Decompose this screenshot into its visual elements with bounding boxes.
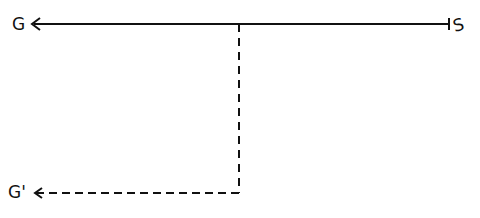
label-s: S bbox=[451, 14, 467, 36]
label-g: G bbox=[12, 14, 25, 34]
diagram-canvas: G S G' bbox=[0, 0, 480, 218]
label-g-prime: G' bbox=[8, 182, 26, 202]
